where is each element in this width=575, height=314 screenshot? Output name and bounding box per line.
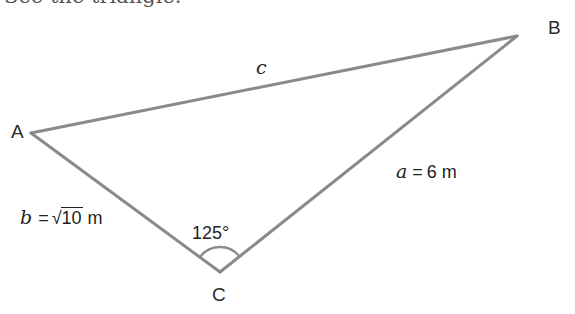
segment-b [31,133,220,272]
side-a-variable: a [396,160,407,182]
side-label-a: a=6m [396,162,457,181]
angle-arc-C [200,247,240,257]
side-b-unit: m [83,208,103,228]
side-c-variable: c [256,56,267,78]
equals-sign-a: = [407,162,427,182]
square-root-expression: √10 [52,209,83,227]
equals-sign-b: = [32,208,52,228]
vertex-label-b: B [548,18,561,37]
triangle-figure: See the triangle. A B C c a=6m b=√10m 12… [0,0,575,314]
triangle-svg [0,0,575,314]
side-a-value: 6 [427,162,437,182]
side-b-variable: b [20,206,32,228]
side-label-b: b=√10m [20,208,103,227]
vertex-label-c: C [212,285,226,304]
side-a-unit: m [437,162,457,182]
radicand: 10 [61,207,83,228]
vertex-label-a: A [11,122,24,141]
segment-c [31,36,517,133]
angle-label-c: 125° [192,224,229,242]
side-label-c: c [256,58,267,77]
